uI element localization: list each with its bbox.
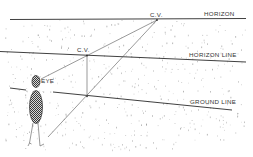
stipple-dot bbox=[171, 72, 172, 73]
stipple-dot bbox=[22, 58, 23, 60]
stipple-dot bbox=[221, 116, 222, 117]
stipple-dot bbox=[73, 87, 74, 88]
stipple-dot bbox=[202, 35, 203, 36]
stipple-dot bbox=[41, 126, 42, 128]
stipple-dot bbox=[63, 135, 64, 137]
stipple-dot bbox=[153, 70, 154, 72]
stipple-dot bbox=[186, 58, 187, 59]
stipple-dot bbox=[125, 81, 126, 82]
stipple-dot bbox=[181, 57, 182, 58]
stipple-dot bbox=[8, 62, 9, 63]
stipple-dot bbox=[94, 61, 95, 62]
stipple-dot bbox=[40, 49, 41, 50]
stipple-dot bbox=[72, 102, 73, 103]
stipple-dot bbox=[204, 40, 205, 42]
stipple-dot bbox=[224, 130, 225, 131]
stipple-dot bbox=[96, 119, 97, 121]
stipple-dot bbox=[76, 144, 77, 146]
stipple-dot bbox=[27, 114, 28, 116]
stipple-dot bbox=[177, 21, 178, 22]
stipple-dot bbox=[119, 84, 120, 86]
stipple-dot bbox=[66, 115, 67, 117]
stipple-dot bbox=[133, 36, 134, 37]
stipple-dot bbox=[9, 105, 10, 106]
stipple-dot bbox=[203, 120, 204, 121]
stipple-dot bbox=[44, 133, 45, 134]
stipple-dot bbox=[161, 98, 162, 100]
stipple-dot bbox=[230, 71, 231, 72]
stipple-dot bbox=[58, 105, 59, 107]
stipple-dot bbox=[171, 29, 172, 31]
stipple-dot bbox=[172, 25, 173, 27]
stipple-dot bbox=[120, 66, 121, 67]
stipple-dot bbox=[190, 123, 191, 125]
stipple-dot bbox=[125, 135, 126, 136]
stipple-dot bbox=[167, 105, 168, 106]
stipple-dot bbox=[119, 146, 120, 147]
stipple-dot bbox=[172, 148, 173, 150]
stipple-dot bbox=[33, 43, 34, 44]
stipple-dot bbox=[245, 30, 246, 31]
stipple-dot bbox=[23, 81, 24, 82]
ground-line-stub bbox=[10, 88, 26, 90]
stipple-dot bbox=[230, 125, 231, 126]
stipple-dot bbox=[154, 32, 155, 33]
label-cv-far: C.V. bbox=[150, 11, 163, 18]
stipple-dot bbox=[33, 132, 34, 133]
stipple-dot bbox=[65, 68, 66, 69]
stipple-dot bbox=[47, 26, 48, 27]
stipple-dot bbox=[61, 31, 62, 32]
stipple-dot bbox=[132, 104, 133, 106]
stipple-dot bbox=[71, 81, 72, 83]
stipple-dot bbox=[131, 53, 132, 55]
stipple-dot bbox=[148, 83, 149, 84]
stipple-dot bbox=[70, 30, 71, 31]
stipple-dot bbox=[55, 78, 56, 79]
stipple-dot bbox=[67, 49, 68, 51]
stipple-dot bbox=[146, 50, 147, 52]
stipple-dot bbox=[90, 105, 91, 107]
stipple-dot bbox=[9, 124, 10, 126]
label-ground-line: GROUND LINE bbox=[190, 98, 236, 105]
stipple-dot bbox=[181, 23, 182, 24]
stipple-dot bbox=[244, 122, 245, 124]
stipple-dot bbox=[205, 70, 206, 71]
stipple-dot bbox=[168, 99, 169, 101]
stipple-dot bbox=[24, 26, 25, 27]
stipple-dot bbox=[207, 43, 208, 45]
stipple-dot bbox=[180, 128, 181, 130]
stipple-dot bbox=[167, 63, 168, 64]
stipple-dot bbox=[126, 112, 127, 113]
stipple-dot bbox=[64, 65, 65, 66]
observer-left-leg bbox=[28, 123, 33, 146]
ground-point bbox=[86, 96, 88, 98]
stipple-dot bbox=[138, 107, 139, 108]
stipple-dot bbox=[114, 147, 115, 148]
stipple-dot bbox=[75, 117, 76, 119]
stipple-dot bbox=[82, 146, 83, 147]
stipple-dot bbox=[110, 144, 111, 145]
stipple-dot bbox=[190, 127, 191, 128]
stipple-dot bbox=[106, 119, 107, 121]
stipple-dot bbox=[80, 141, 81, 143]
stipple-dot bbox=[65, 134, 66, 136]
stipple-dot bbox=[126, 55, 127, 56]
sight-line-ground-to-cv bbox=[48, 20, 157, 137]
label-eye: EYE bbox=[41, 77, 54, 84]
stipple-dot bbox=[177, 100, 178, 102]
stipple-dot bbox=[45, 149, 46, 150]
stipple-dot bbox=[188, 83, 189, 84]
stipple-dot bbox=[50, 26, 51, 27]
stipple-dot bbox=[108, 47, 109, 49]
stipple-dot bbox=[79, 123, 80, 124]
stipple-dot bbox=[169, 119, 170, 120]
stipple-dot bbox=[21, 126, 22, 127]
stipple-dot bbox=[131, 71, 132, 72]
stipple-dot bbox=[138, 85, 139, 87]
stipple-dot bbox=[92, 78, 93, 80]
stipple-dot bbox=[25, 95, 26, 97]
stipple-dot bbox=[16, 137, 17, 138]
stipple-dot bbox=[165, 86, 166, 87]
stipple-dot bbox=[43, 91, 44, 93]
stipple-dot bbox=[214, 78, 215, 79]
